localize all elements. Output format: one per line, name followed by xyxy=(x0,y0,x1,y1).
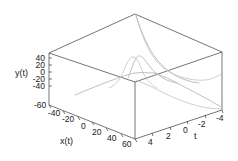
x-tick-label-60: 60 xyxy=(122,139,132,149)
box-top-edge-front-left xyxy=(49,53,135,82)
x-axis-tick-labels: -60 -40 -20 0 20 40 60 xyxy=(34,100,132,149)
x-tick-label-0: 0 xyxy=(81,121,86,131)
x-tick-60 xyxy=(135,139,137,142)
t-tick-label-0: 0 xyxy=(183,125,188,135)
space-curve-primary xyxy=(75,73,154,95)
plot-container: 40 20 0 -20 -40 y(t) -60 -40 -20 0 20 40… xyxy=(0,0,238,161)
t-axis-title: t xyxy=(194,131,197,141)
x-axis-title: x(t) xyxy=(60,136,73,146)
t-tick-label-m4: -4 xyxy=(216,113,224,123)
x-tick-label-20: 20 xyxy=(92,127,102,137)
x-tick-label-m60: -60 xyxy=(34,100,47,110)
t-tick-2 xyxy=(170,127,171,130)
t-tick-label-2: 2 xyxy=(166,131,171,141)
t-tick-label-m2: -2 xyxy=(198,119,206,129)
x-tick-label-m40: -40 xyxy=(48,108,61,118)
box-bottom-edge-right xyxy=(135,110,222,139)
x-tick-label-40: 40 xyxy=(107,133,117,143)
box-top-edge-back-left xyxy=(49,14,135,53)
x-tick-label-m20: -20 xyxy=(62,114,75,124)
t-axis-tick-labels: 4 2 0 -2 -4 xyxy=(148,113,224,147)
y-axis-title: y(t) xyxy=(15,68,28,78)
t-tick-4 xyxy=(152,133,153,136)
y-axis-tickmarks xyxy=(49,58,52,86)
plot-bounding-box xyxy=(49,14,222,139)
parametric-3d-plot: 40 20 0 -20 -40 y(t) -60 -40 -20 0 20 40… xyxy=(0,0,238,161)
y-axis-tick-labels: 40 20 0 -20 -40 xyxy=(33,53,46,91)
y-tick-label-m40: -40 xyxy=(33,81,46,91)
space-curve-tail xyxy=(154,73,222,107)
t-tick-label-4: 4 xyxy=(148,137,153,147)
